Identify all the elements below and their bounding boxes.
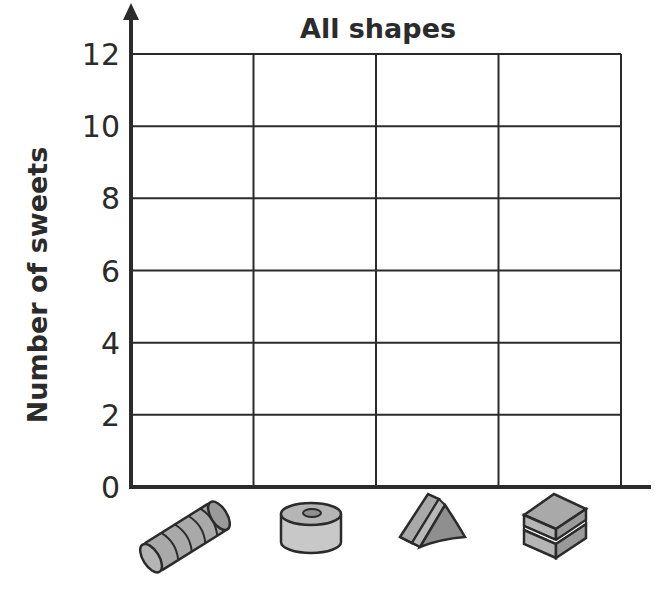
triangle-prism-sweet-icon — [400, 494, 465, 547]
y-tick-label: 8 — [101, 181, 120, 216]
cylinder-sweet-icon — [136, 498, 234, 576]
y-tick-label: 2 — [101, 398, 120, 433]
y-axis-label: Number of sweets — [22, 147, 53, 424]
y-tick-label: 4 — [101, 326, 120, 361]
y-tick-labels: 024681012 — [82, 37, 120, 505]
y-tick-label: 0 — [101, 470, 120, 505]
chart-title: All shapes — [300, 13, 456, 44]
layered-cube-sweet-icon — [524, 494, 586, 558]
ring-sweet-icon — [281, 503, 341, 553]
axes — [123, 3, 651, 489]
y-tick-label: 6 — [101, 254, 120, 289]
bar-chart: All shapes Number of sweets 024681012 — [0, 0, 658, 596]
y-tick-label: 10 — [82, 109, 120, 144]
y-tick-label: 12 — [82, 37, 120, 72]
grid — [131, 54, 621, 487]
y-axis-arrow-icon — [123, 3, 139, 20]
